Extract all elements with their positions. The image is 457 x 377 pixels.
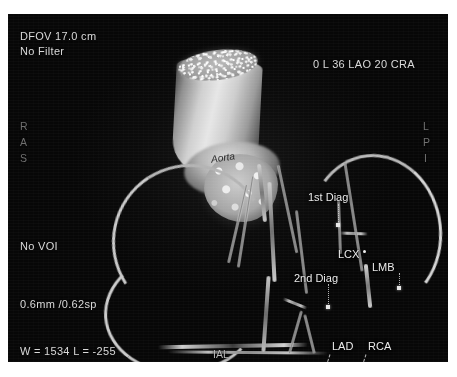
screenshot-root: DFOV 17.0 cm No Filter 0 L 36 LAO 20 CRA… xyxy=(0,0,457,377)
image-vertical-noise xyxy=(8,14,448,362)
ct-scan-image: DFOV 17.0 cm No Filter 0 L 36 LAO 20 CRA… xyxy=(8,14,448,362)
